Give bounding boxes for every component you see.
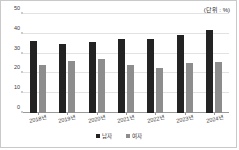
y-tick-label: 20 — [14, 64, 20, 70]
bar — [206, 30, 213, 113]
bar — [30, 41, 37, 113]
bar — [147, 39, 154, 113]
y-tick-label: 0 — [17, 104, 20, 110]
bar — [186, 63, 193, 113]
legend-label: 남자 — [102, 132, 112, 140]
bar-group — [141, 14, 170, 113]
bar-groups — [23, 14, 229, 113]
bar — [156, 68, 163, 113]
legend-label: 여자 — [132, 132, 142, 140]
x-tick-label: 2022년 — [140, 112, 170, 126]
bar — [215, 62, 222, 113]
y-tick-label: 30 — [14, 45, 20, 51]
x-tick-label: 2023년 — [170, 112, 200, 126]
bar — [39, 65, 46, 113]
bar-group — [170, 14, 199, 113]
chart-figure: (단위 : %) 01020304050 2018년2019년2020년2021… — [0, 0, 237, 148]
bar — [98, 59, 105, 113]
y-tick-label: 10 — [14, 84, 20, 90]
bar — [177, 35, 184, 113]
bar — [127, 65, 134, 113]
x-axis-labels: 2018년2019년2020년2021년2022년2023년2024년 — [23, 115, 229, 123]
bar-group — [111, 14, 140, 113]
bar-group — [23, 14, 52, 113]
bar-group — [200, 14, 229, 113]
x-tick-label: 2021년 — [111, 112, 141, 126]
legend-item-male[interactable]: 남자 — [96, 132, 112, 140]
x-tick-label: 2018년 — [22, 112, 52, 126]
plot-area: 01020304050 — [23, 14, 229, 113]
bar-group — [82, 14, 111, 113]
bar — [59, 44, 66, 113]
y-tick-label: 40 — [14, 25, 20, 31]
chart-legend: 남자여자 — [1, 132, 236, 140]
legend-item-female[interactable]: 여자 — [126, 132, 142, 140]
legend-swatch-icon — [96, 134, 100, 138]
x-tick-label: 2020년 — [81, 112, 111, 126]
bar — [118, 39, 125, 113]
bar — [68, 61, 75, 113]
x-tick-label: 2024년 — [199, 112, 229, 126]
legend-swatch-icon — [126, 134, 130, 138]
x-tick-label: 2019년 — [52, 112, 82, 126]
y-tick-label: 50 — [14, 5, 20, 11]
bar — [89, 42, 96, 113]
bar-group — [52, 14, 81, 113]
